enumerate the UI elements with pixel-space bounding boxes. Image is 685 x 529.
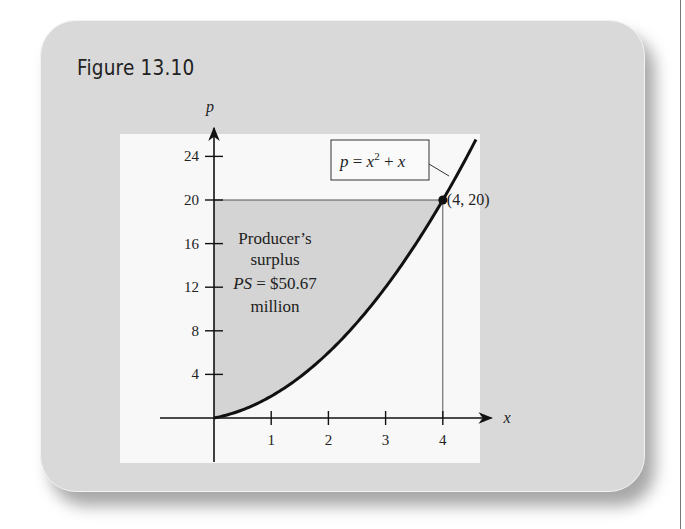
- x-tick-label: 1: [267, 432, 275, 448]
- y-tick-label: 8: [192, 323, 200, 339]
- y-tick-label: 24: [184, 148, 200, 164]
- y-tick-label: 20: [184, 192, 199, 208]
- y-tick-label: 4: [192, 366, 200, 382]
- x-axis-label: x: [502, 409, 510, 426]
- surplus-annotation-line: PS = $50.67: [232, 274, 317, 293]
- producer-surplus-chart: 12344812162024 px(4, 20)p = x2 + xProduc…: [0, 0, 685, 529]
- page-divider: [680, 0, 681, 529]
- x-tick-label: 2: [325, 432, 333, 448]
- surplus-annotation-line: million: [250, 297, 300, 316]
- equation-leader-line: [429, 164, 449, 176]
- y-axis-label: p: [205, 98, 214, 116]
- x-tick-label: 3: [382, 432, 390, 448]
- y-tick-label: 16: [184, 236, 200, 252]
- point-label: (4, 20): [447, 191, 490, 209]
- surplus-annotation-line: surplus: [250, 250, 299, 269]
- y-tick-label: 12: [184, 279, 199, 295]
- equation-label: p = x2 + x: [339, 150, 406, 171]
- x-tick-label: 4: [439, 432, 447, 448]
- surplus-annotation-line: Producer’s: [238, 229, 311, 248]
